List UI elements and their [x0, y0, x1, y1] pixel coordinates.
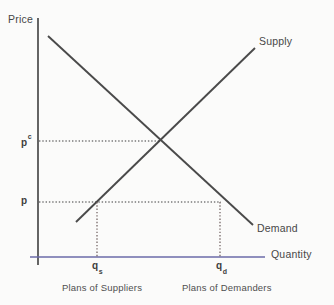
price-tick-superscript: c: [28, 133, 32, 140]
plans-of-demanders-caption: Plans of Demanders: [182, 283, 272, 293]
quantity-demanded-tick-label: qd: [216, 261, 227, 273]
price-tick-base: p: [21, 137, 27, 148]
quantity-tick-subscript: d: [223, 268, 227, 275]
price-tick-base: p: [21, 195, 27, 206]
y-axis-label: Price: [8, 14, 33, 25]
ceiling-price-tick-label: p: [21, 196, 27, 206]
quantity-supplied-tick-label: qs: [92, 261, 102, 273]
quantity-tick-subscript: s: [99, 268, 103, 275]
quantity-tick-base: q: [92, 260, 98, 271]
equilibrium-price-tick-label: pc: [21, 136, 31, 148]
supply-curve-label: Supply: [259, 36, 292, 47]
demand-curve: [48, 36, 253, 225]
x-axis-label: Quantity: [271, 249, 312, 260]
supply-demand-figure: Price Quantity Supply Demand pc p qs qd …: [0, 0, 334, 305]
plans-of-suppliers-caption: Plans of Suppliers: [62, 283, 142, 293]
demand-curve-label: Demand: [257, 223, 298, 234]
quantity-tick-base: q: [216, 260, 222, 271]
supply-curve: [76, 48, 255, 222]
